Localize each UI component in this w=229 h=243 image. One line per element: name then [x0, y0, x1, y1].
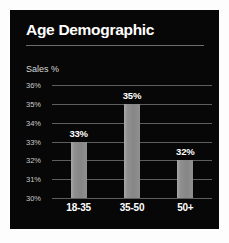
y-axis-tick-label: 31%	[26, 175, 48, 184]
screenshot-root: Age Demographic Sales % 30%31%32%33%34%3…	[0, 0, 229, 243]
x-axis-tick-label: 35-50	[120, 202, 145, 213]
x-axis-tick-label: 50+	[177, 202, 193, 213]
bar-value-label: 35%	[123, 90, 141, 101]
bar	[124, 104, 140, 198]
bar-value-label: 32%	[176, 146, 194, 157]
bar-group: 32%	[159, 85, 212, 198]
bar	[177, 160, 193, 198]
title-divider	[26, 45, 204, 46]
bar-group: 33%	[52, 85, 105, 198]
chart-card: Age Demographic Sales % 30%31%32%33%34%3…	[10, 10, 219, 229]
y-axis-tick-label: 32%	[26, 156, 48, 165]
plot-area: 30%31%32%33%34%35%36% 33%35%32%	[26, 85, 212, 198]
y-axis-tick-label: 36%	[26, 81, 48, 90]
bar-group: 35%	[105, 85, 158, 198]
gridline	[52, 198, 212, 199]
y-axis-tick-label: 33%	[26, 137, 48, 146]
x-axis-tick-layer: 18-3535-5050+	[52, 202, 212, 218]
bar-value-label: 33%	[69, 128, 87, 139]
x-axis-tick-slot: 50+	[159, 202, 212, 218]
page-title: Age Demographic	[26, 21, 154, 39]
y-axis-tick-label: 35%	[26, 99, 48, 108]
bar	[71, 142, 87, 199]
y-axis-unit-label: Sales %	[26, 64, 59, 74]
bar-series: 33%35%32%	[52, 85, 212, 198]
x-axis-tick-label: 18-35	[66, 202, 91, 213]
x-axis-tick-slot: 35-50	[105, 202, 158, 218]
y-axis-tick-label: 34%	[26, 118, 48, 127]
x-axis-tick-slot: 18-35	[52, 202, 105, 218]
y-axis-tick-label: 30%	[26, 194, 48, 203]
